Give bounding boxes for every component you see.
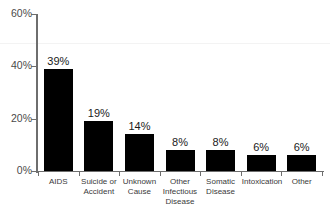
category-label: AIDS (39, 177, 78, 187)
bar-value-label: 8% (158, 136, 202, 148)
x-axis-tick-mark (322, 172, 323, 176)
x-axis-tick-mark (160, 172, 161, 176)
category-label: Unknown Cause (120, 177, 159, 197)
bar (206, 150, 235, 171)
y-axis-tick-mark (31, 14, 37, 15)
category-label: Intoxication (242, 177, 281, 187)
bar-value-label: 19% (77, 107, 121, 119)
bar-value-label: 6% (239, 141, 283, 153)
bar (84, 121, 113, 171)
category-label: Somatic Disease (201, 177, 240, 197)
bar (125, 134, 154, 171)
category-label: Other (282, 177, 321, 187)
bar-value-label: 14% (117, 120, 161, 132)
bar-value-label: 6% (280, 141, 324, 153)
x-axis-tick-mark (241, 172, 242, 176)
x-axis-tick-mark (200, 172, 201, 176)
y-axis-tick-label: 40% (0, 59, 32, 71)
bar-chart: 0%20%40%60% 39%19%14%8%8%6%6% AIDSSuicid… (0, 0, 330, 205)
x-axis-tick-mark (281, 172, 282, 176)
gridline-50-percent (0, 43, 330, 44)
category-label: Other Infectious Disease (161, 177, 200, 205)
y-axis-tick-label: 20% (0, 112, 32, 124)
bar (166, 150, 195, 171)
bar (287, 155, 316, 171)
y-axis-tick-label: 60% (0, 7, 32, 19)
bar-value-label: 8% (199, 136, 243, 148)
bar (247, 155, 276, 171)
y-axis-tick-mark (31, 171, 37, 172)
y-axis-tick-mark (31, 119, 37, 120)
x-axis-tick-mark (79, 172, 80, 176)
x-axis-tick-mark (119, 172, 120, 176)
bar-value-label: 39% (36, 55, 80, 67)
category-label: Suicide or Accident (80, 177, 119, 197)
x-axis-tick-mark (38, 172, 39, 176)
y-axis-line (36, 14, 38, 173)
y-axis-tick-label: 0% (0, 164, 32, 176)
bar (44, 69, 73, 171)
